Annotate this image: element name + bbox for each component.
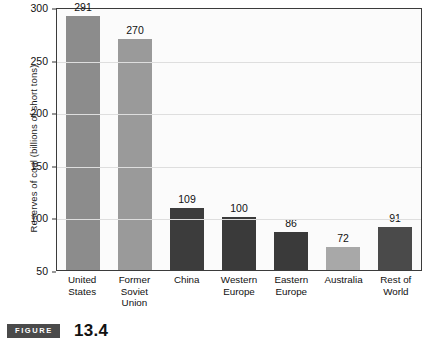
figure-container: Reserves of coal (billions of short tons… — [0, 0, 431, 345]
x-category-label-line: Eastern — [265, 274, 317, 286]
x-category-label: Rest ofWorld — [370, 274, 422, 309]
bar-value-label: 109 — [178, 193, 196, 205]
bar[interactable]: 109 — [170, 208, 204, 270]
plot-area: 291270109100867291 — [56, 8, 422, 271]
y-tick-label: 200 — [30, 107, 48, 119]
bars-layer: 291270109100867291 — [57, 9, 421, 270]
x-category-label: Australia — [317, 274, 369, 309]
y-tick-label: 250 — [30, 55, 48, 67]
x-category-label-line: World — [370, 286, 422, 298]
bar-slot: 91 — [369, 9, 421, 270]
bar-value-label: 91 — [389, 212, 401, 224]
gridline — [57, 114, 421, 115]
x-category-label-line: Europe — [213, 286, 265, 298]
x-category-label-line: States — [56, 286, 108, 298]
bar-slot: 86 — [265, 9, 317, 270]
bar-slot: 100 — [213, 9, 265, 270]
y-tick-label: 50 — [36, 265, 48, 277]
x-category-label-line: Western — [213, 274, 265, 286]
figure-caption: FIGURE 13.4 — [7, 321, 108, 341]
bar[interactable]: 72 — [326, 247, 360, 270]
bar[interactable]: 270 — [118, 39, 152, 270]
bar-slot: 72 — [317, 9, 369, 270]
x-category-label-line: United — [56, 274, 108, 286]
figure-badge: FIGURE — [7, 324, 60, 338]
bar[interactable]: 291 — [66, 16, 100, 270]
bar[interactable]: 86 — [274, 232, 308, 270]
bar-chart: Reserves of coal (billions of short tons… — [0, 0, 431, 310]
gridline — [57, 62, 421, 63]
x-category-label: EasternEurope — [265, 274, 317, 309]
y-axis-tick-labels: 50100150200250300 — [26, 8, 52, 271]
x-category-label-line: Rest of — [370, 274, 422, 286]
x-category-label: WesternEurope — [213, 274, 265, 309]
bar-value-label: 270 — [126, 24, 144, 36]
bar-value-label: 72 — [337, 232, 349, 244]
y-tick-label: 300 — [30, 2, 48, 14]
bar-value-label: 291 — [74, 1, 92, 13]
x-category-label-line: China — [161, 274, 213, 286]
x-axis-category-labels: UnitedStatesFormerSovietUnionChinaWester… — [56, 274, 422, 309]
x-category-label-line: Australia — [317, 274, 369, 286]
x-category-label: UnitedStates — [56, 274, 108, 309]
y-tick-mark — [52, 272, 56, 273]
x-category-label: FormerSovietUnion — [108, 274, 160, 309]
x-category-label: China — [161, 274, 213, 309]
bar-slot: 109 — [161, 9, 213, 270]
bar[interactable]: 100 — [222, 217, 256, 270]
bar-slot: 270 — [109, 9, 161, 270]
bar-value-label: 100 — [230, 202, 248, 214]
x-category-label-line: Union — [108, 297, 160, 309]
y-tick-label: 150 — [30, 160, 48, 172]
bar[interactable]: 91 — [378, 227, 412, 270]
bar-slot: 291 — [57, 9, 109, 270]
x-category-label-line: Soviet — [108, 286, 160, 298]
x-category-label-line: Former — [108, 274, 160, 286]
x-category-label-line: Europe — [265, 286, 317, 298]
gridline — [57, 219, 421, 220]
gridline — [57, 167, 421, 168]
figure-number: 13.4 — [74, 321, 108, 341]
y-tick-label: 100 — [30, 212, 48, 224]
